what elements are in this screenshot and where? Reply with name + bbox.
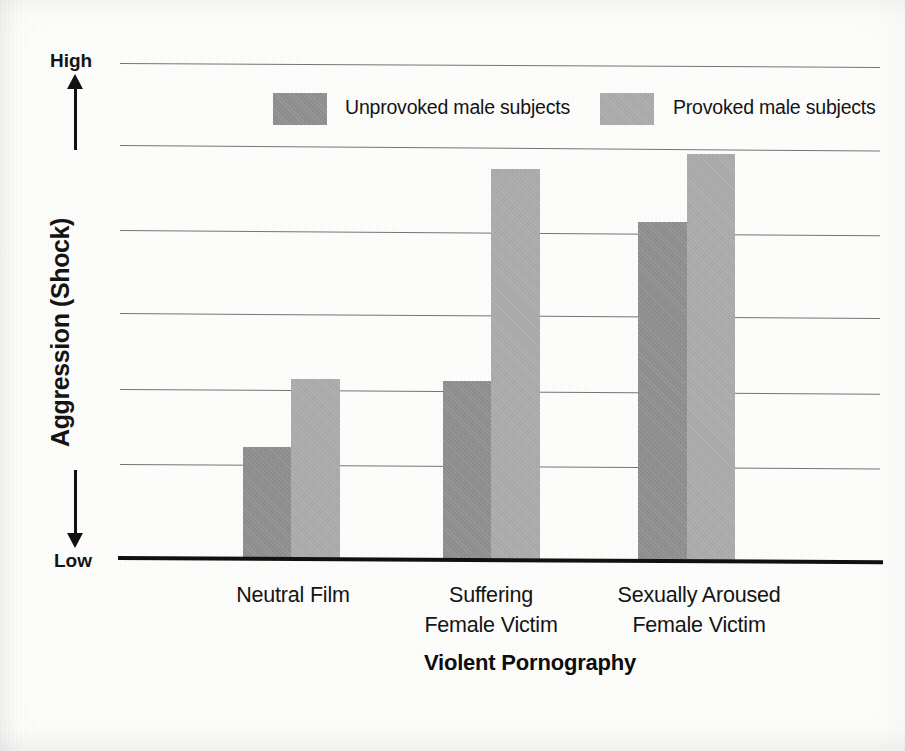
x-axis-title: Violent Pornography [340, 650, 720, 676]
bar-sexually-aroused-female-victim-unprovoked [638, 222, 687, 560]
bar-suffering-female-victim-provoked [491, 169, 540, 559]
legend-label-unprovoked: Unprovoked male subjects [345, 96, 570, 119]
bar-neutral-film-provoked [291, 379, 340, 558]
y-axis-title: Aggression (Shock) [46, 178, 75, 488]
bar-suffering-female-victim-unprovoked [443, 381, 491, 559]
y-axis-low-label: Low [54, 550, 92, 572]
gridline-2 [120, 145, 880, 152]
y-axis-high-label: High [50, 50, 92, 72]
legend-swatch-unprovoked [273, 93, 327, 125]
x-axis-category-label-neutral-film: Neutral Film [198, 580, 388, 610]
gridline-1 [120, 63, 880, 68]
bar-chart: High Low Aggression (Shock) Unprovoked m… [0, 0, 905, 751]
arrow-down-icon [67, 533, 83, 548]
legend-swatch-provoked [600, 93, 654, 125]
bar-neutral-film-unprovoked [243, 447, 291, 558]
legend-label-provoked: Provoked male subjects [673, 96, 876, 119]
x-axis-category-label-sexually-aroused-female-victim: Sexually Aroused Female Victim [584, 580, 814, 640]
x-axis-baseline [118, 556, 883, 564]
bar-sexually-aroused-female-victim-provoked [687, 154, 735, 560]
x-axis-category-label-suffering-female-victim: Suffering Female Victim [396, 580, 586, 640]
arrow-up-icon [67, 74, 83, 89]
scanned-chart-page: High Low Aggression (Shock) Unprovoked m… [0, 0, 905, 751]
y-axis-shaft-upper [74, 88, 77, 150]
